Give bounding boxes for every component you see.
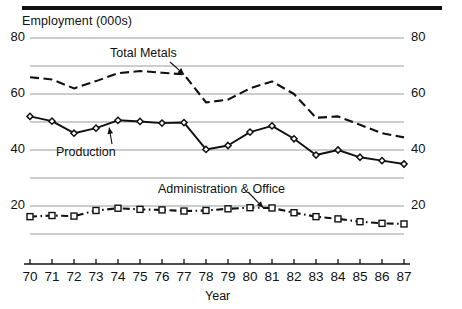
data-point-marker [159, 207, 165, 213]
data-point-marker [203, 207, 209, 213]
data-point-marker [93, 125, 99, 131]
y-tick-label-right: 80 [411, 29, 441, 44]
data-point-marker [159, 120, 165, 126]
data-point-marker [269, 205, 275, 211]
data-point-marker [357, 219, 363, 225]
data-point-marker [181, 208, 187, 214]
data-point-marker [313, 214, 319, 220]
series-line-2 [30, 208, 404, 224]
y-tick-label-right: 20 [411, 197, 441, 212]
x-axis [24, 259, 410, 264]
y-tick-label-right: 40 [411, 141, 441, 156]
y-tick-label-left: 20 [0, 197, 25, 212]
data-point-marker [137, 118, 143, 124]
data-point-marker [291, 210, 297, 216]
data-point-marker [49, 213, 55, 219]
data-point-marker [401, 161, 407, 167]
y-tick-label-left: 80 [0, 29, 25, 44]
data-point-marker [379, 220, 385, 226]
y-tick-label-left: 40 [0, 141, 25, 156]
data-point-marker [335, 216, 341, 222]
annotation-label: Production [56, 145, 116, 159]
annotation-arrowhead-icon [107, 128, 113, 135]
y-tick-label-right: 60 [411, 85, 441, 100]
y-tick-label-left: 60 [0, 85, 25, 100]
annotation-label: Total Metals [110, 46, 177, 60]
data-point-marker [27, 214, 33, 220]
data-point-marker [401, 221, 407, 227]
annotation-label: Administration & Office [158, 182, 285, 196]
data-point-marker [115, 205, 121, 211]
data-point-marker [225, 206, 231, 212]
data-point-marker [93, 207, 99, 213]
data-point-marker [379, 158, 385, 164]
employment-line-chart: Employment (000s) 80604020 80604020 7071… [0, 0, 462, 309]
series-line-0 [30, 71, 404, 137]
data-point-marker [137, 206, 143, 212]
data-point-marker [247, 205, 253, 211]
data-point-marker [335, 147, 341, 153]
data-point-marker [71, 213, 77, 219]
x-tick-label: 87 [391, 269, 417, 284]
data-point-marker [357, 154, 363, 160]
data-point-marker [27, 113, 33, 119]
gridlines [30, 38, 404, 234]
x-axis-title: Year [205, 289, 230, 303]
